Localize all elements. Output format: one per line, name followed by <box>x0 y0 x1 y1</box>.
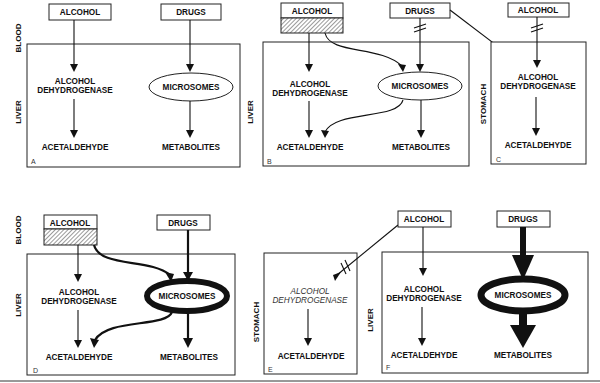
svg-text:DEHYDROGENASE: DEHYDROGENASE <box>272 296 348 305</box>
svg-text:ALCOHOL: ALCOHOL <box>55 77 95 86</box>
svg-text:DRUGS: DRUGS <box>168 219 198 228</box>
panel-letter-e: E <box>268 366 273 373</box>
svg-text:METABOLITES: METABOLITES <box>162 143 221 152</box>
panel-letter-c: C <box>496 156 501 163</box>
svg-text:ACETALDEHYDE: ACETALDEHYDE <box>505 141 572 150</box>
svg-text:ALCOHOL: ALCOHOL <box>518 73 558 82</box>
svg-text:ALCOHOL: ALCOHOL <box>404 285 444 294</box>
svg-text:STOMACH: STOMACH <box>479 84 488 125</box>
hatched-alcohol-excess <box>44 229 97 245</box>
svg-text:ALCOHOL: ALCOHOL <box>404 215 444 224</box>
blood-label: BLOOD <box>14 23 23 52</box>
svg-text:METABOLITES: METABOLITES <box>494 351 553 360</box>
panel-letter-f: F <box>386 364 390 371</box>
svg-text:ALCOHOL: ALCOHOL <box>59 288 99 297</box>
svg-text:ALCOHOL: ALCOHOL <box>289 287 329 296</box>
panel-c: STOMACH ALCOHOL ALCOHOL DEHYDROGENASE AC… <box>479 3 586 164</box>
svg-text:ACETALDEHYDE: ACETALDEHYDE <box>42 143 109 152</box>
svg-text:ALCOHOL: ALCOHOL <box>518 6 558 15</box>
panel-d: BLOOD LIVER ALCOHOL DRUGS ALCOHOL DEHYDR… <box>14 215 235 375</box>
metabolism-diagram: BLOOD LIVER ALCOHOL DRUGS ALCOHOL DEHYDR… <box>0 0 600 383</box>
svg-text:ALCOHOL: ALCOHOL <box>290 80 330 89</box>
svg-text:METABOLITES: METABOLITES <box>160 353 219 362</box>
svg-text:ACETALDEHYDE: ACETALDEHYDE <box>277 143 344 152</box>
svg-text:DEHYDROGENASE: DEHYDROGENASE <box>41 297 117 306</box>
svg-text:MICROSOMES: MICROSOMES <box>163 83 220 92</box>
liver-label: LIVER <box>14 100 23 124</box>
svg-text:DRUGS: DRUGS <box>176 8 206 17</box>
svg-text:METABOLITES: METABOLITES <box>392 143 451 152</box>
svg-text:BLOOD: BLOOD <box>14 215 23 244</box>
hatched-alcohol-excess <box>281 18 343 33</box>
svg-text:ALCOHOL: ALCOHOL <box>60 8 100 17</box>
panel-f: LIVER ALCOHOL DRUGS ALCOHOL DEHYDROGENAS… <box>366 211 588 373</box>
svg-text:ALCOHOL: ALCOHOL <box>50 219 90 228</box>
panel-letter-d: D <box>33 367 38 374</box>
svg-text:DEHYDROGENASE: DEHYDROGENASE <box>37 86 113 95</box>
svg-text:DEHYDROGENASE: DEHYDROGENASE <box>500 82 576 91</box>
panel-letter-b: B <box>267 158 272 165</box>
panel-letter-a: A <box>31 158 36 165</box>
svg-text:MICROSOMES: MICROSOMES <box>495 291 552 300</box>
svg-text:ACETALDEHYDE: ACETALDEHYDE <box>391 351 458 360</box>
svg-text:ALCOHOL: ALCOHOL <box>292 7 332 16</box>
svg-text:DEHYDROGENASE: DEHYDROGENASE <box>386 294 462 303</box>
svg-text:ACETALDEHYDE: ACETALDEHYDE <box>46 353 113 362</box>
svg-text:ACETALDEHYDE: ACETALDEHYDE <box>278 352 345 361</box>
svg-text:LIVER: LIVER <box>246 100 255 124</box>
panel-e: STOMACH ALCOHOL DEHYDROGENASE ACETALDEHY… <box>252 225 398 374</box>
svg-text:STOMACH: STOMACH <box>252 302 261 343</box>
svg-text:MICROSOMES: MICROSOMES <box>159 292 216 301</box>
svg-text:DRUGS: DRUGS <box>508 215 538 224</box>
panel-a: BLOOD LIVER ALCOHOL DRUGS ALCOHOL DEHYDR… <box>14 4 240 167</box>
svg-text:DEHYDROGENASE: DEHYDROGENASE <box>272 89 348 98</box>
svg-text:DRUGS: DRUGS <box>405 7 435 16</box>
svg-text:LIVER: LIVER <box>366 308 375 332</box>
svg-text:LIVER: LIVER <box>14 293 23 317</box>
svg-text:MICROSOMES: MICROSOMES <box>392 82 449 91</box>
